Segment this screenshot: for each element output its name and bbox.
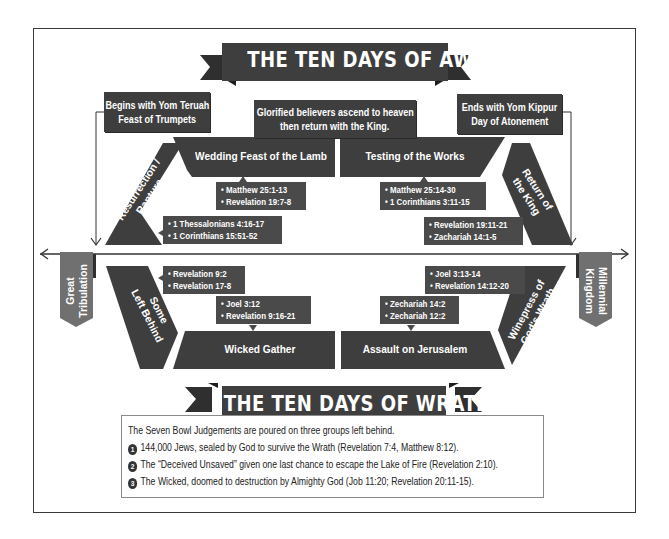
label-tribulation: Tribulation [77,259,90,323]
ref-left-behind-2: • Revelation 17-8 [168,280,231,292]
box-ends-yom-kippur: Ends with Yom Kippur Day of Atonement [457,94,562,134]
pointer-assault [407,325,415,331]
ref-wedding-2: • Revelation 19:7-8 [221,196,291,208]
refs-wicked-gather: • Joel 3:12 • Revelation 9:16-21 [216,296,311,324]
pointer-wicked-gather [249,325,257,331]
box-begins-line1: Begins with Yom Teruah [105,98,209,112]
refs-left-behind: • Revelation 9:2 • Revelation 17-8 [163,266,245,294]
ref-resurrection-1: • 1 Thessalonians 4:16-17 [168,218,264,230]
tab-left-shade [93,254,96,278]
title-ten-days-of-awe: THE TEN DAYS OF AWE [247,47,422,72]
ref-winepress-2: • Revelation 14:12-20 [430,280,509,292]
refs-return: • Revelation 19:11-21 • Zachariah 14:1-5 [424,217,523,245]
wrath-item-2-text: The “Deceived Unsaved” given one last ch… [140,458,498,470]
label-great-tribulation: Great Tribulation [64,259,90,323]
wrath-intro: The Seven Bowl Judgements are poured on … [128,424,394,436]
ref-resurrection-2: • 1 Corinthians 15:51-52 [168,230,264,242]
number-2-icon: 2 [128,461,137,472]
label-kingdom: Kingdom [583,259,596,323]
label-millennial: Millennial [596,259,609,323]
label-great: Great [64,259,77,323]
refs-wedding: • Matthew 25:1-13 • Revelation 19:7-8 [216,182,306,210]
box-begins-line2: Feast of Trumpets [118,112,196,126]
tab-right-shade [576,254,579,278]
box-glorified-line1: Glorified believers ascend to heaven [256,105,413,119]
label-millennial-kingdom: Millennial Kingdom [583,259,609,323]
box-begins-yom-teruah: Begins with Yom Teruah Feast of Trumpets [104,92,210,132]
wrath-item-1: 1144,000 Jews, sealed by God to survive … [128,441,459,455]
box-ends-line2: Day of Atonement [471,114,548,128]
refs-assault: • Zechariah 14:2 • Zechariah 12:2 [380,296,459,324]
number-3-icon: 3 [128,478,137,489]
refs-resurrection: • 1 Thessalonians 4:16-17 • 1 Corinthian… [163,216,282,244]
number-1-icon: 1 [128,444,137,455]
box-ends-line1: Ends with Yom Kippur [462,100,557,114]
label-assault-jerusalem: Assault on Jerusalem [353,343,476,355]
ref-left-behind-1: • Revelation 9:2 [168,268,231,280]
ref-wicked-gather-2: • Revelation 9:16-21 [221,310,296,322]
banner-bot-left-tail [185,387,212,412]
ref-return-1: • Revelation 19:11-21 [429,219,507,231]
ref-return-2: • Zachariah 14:1-5 [429,231,507,243]
label-wicked-gather: Wicked Gather [198,343,321,355]
ref-assault-2: • Zechariah 12:2 [385,310,445,322]
wrath-item-3-text: The Wicked, doomed to destruction by Alm… [140,475,473,487]
ref-testing-1: • Matthew 25:14-30 [385,184,470,196]
ref-wedding-1: • Matthew 25:1-13 [221,184,291,196]
ref-testing-2: • 1 Corinthians 3:11-15 [385,196,470,208]
box-glorified-believers: Glorified believers ascend to heaven the… [254,100,416,138]
ref-wicked-gather-1: • Joel 3:12 [221,298,296,310]
ref-winepress-1: • Joel 3:13-14 [430,268,509,280]
wrath-item-3: 3The Wicked, doomed to destruction by Al… [128,475,474,489]
label-testing-works: Testing of the Works [353,150,476,162]
refs-testing: • Matthew 25:14-30 • 1 Corinthians 3:11-… [380,182,486,210]
box-glorified-line2: then return with the King. [280,119,389,133]
title-ten-days-of-wrath: THE TEN DAYS OF WRATH [224,391,440,416]
wrath-item-1-text: 144,000 Jews, sealed by God to survive t… [140,441,458,453]
connector-left [96,112,104,244]
label-wedding-feast: Wedding Feast of the Lamb [195,150,327,162]
wrath-item-2: 2The “Deceived Unsaved” given one last c… [128,458,498,472]
refs-winepress: • Joel 3:13-14 • Revelation 14:12-20 [425,266,525,294]
ref-assault-1: • Zechariah 14:2 [385,298,445,310]
